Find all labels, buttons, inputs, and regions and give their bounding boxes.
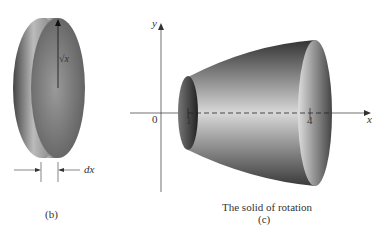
thickness-label: dx <box>84 163 94 175</box>
caption-title: The solid of rotation <box>222 201 312 213</box>
caption-c: (c) <box>258 213 270 225</box>
diagram-canvas <box>0 0 387 232</box>
origin-label: 0 <box>152 113 158 125</box>
x-axis-label: x <box>367 113 372 125</box>
tick-1-label: 1 <box>186 114 192 126</box>
y-axis-label: y <box>152 17 157 29</box>
disk <box>13 18 85 158</box>
dx-dimension <box>14 162 80 182</box>
tick-4-label: 4 <box>307 114 313 126</box>
caption-b: (b) <box>45 208 58 220</box>
radius-label: √x <box>59 53 69 64</box>
